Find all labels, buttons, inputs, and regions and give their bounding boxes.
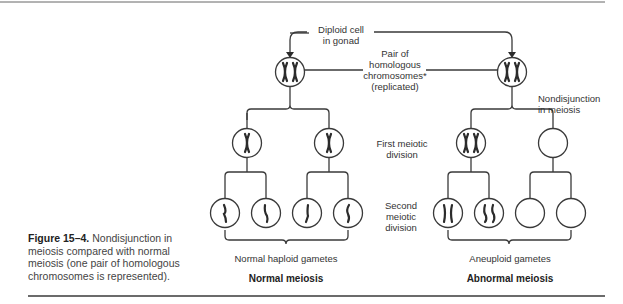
second-div-line2: meiotic bbox=[368, 211, 434, 222]
figure-caption: Figure 15–4. Nondisjunction in meiosis c… bbox=[28, 232, 203, 282]
chromosome-pair-left bbox=[283, 63, 297, 81]
aneuploid-gametes-label: Aneuploid gametes bbox=[450, 253, 570, 264]
diploid-line1: Diploid cell bbox=[308, 24, 374, 35]
pair-line2: homologous bbox=[362, 59, 428, 70]
diploid-cell-label: Diploid cell in gonad bbox=[308, 24, 374, 46]
first-div-line1: First meiotic bbox=[365, 138, 439, 149]
normal-meiosis-heading: Normal meiosis bbox=[226, 273, 346, 284]
second-div-line3: division bbox=[368, 222, 434, 233]
first-division-label: First meiotic division bbox=[365, 138, 439, 160]
diploid-line2: in gonad bbox=[308, 35, 374, 46]
nondisjunction-label: Nondisjunction in meiosis bbox=[538, 93, 618, 115]
second-div-line1: Second bbox=[368, 200, 434, 211]
homologous-pair-label: Pair of homologous chromosomes* (replica… bbox=[362, 48, 428, 92]
pair-line3: chromosomes* bbox=[362, 70, 428, 81]
pair-line4: (replicated) bbox=[362, 81, 428, 92]
nondisjunction-line2: in meiosis bbox=[538, 104, 618, 115]
abnormal-meiosis-heading: Abnormal meiosis bbox=[450, 273, 570, 284]
normal-gametes-label: Normal haploid gametes bbox=[226, 253, 346, 264]
pair-line1: Pair of bbox=[362, 48, 428, 59]
second-division-label: Second meiotic division bbox=[368, 200, 434, 233]
chromosome-pair-right bbox=[505, 63, 519, 81]
caption-title: Figure 15–4. bbox=[28, 232, 89, 244]
nondisjunction-line1: Nondisjunction bbox=[538, 93, 618, 104]
first-div-line2: division bbox=[365, 149, 439, 160]
